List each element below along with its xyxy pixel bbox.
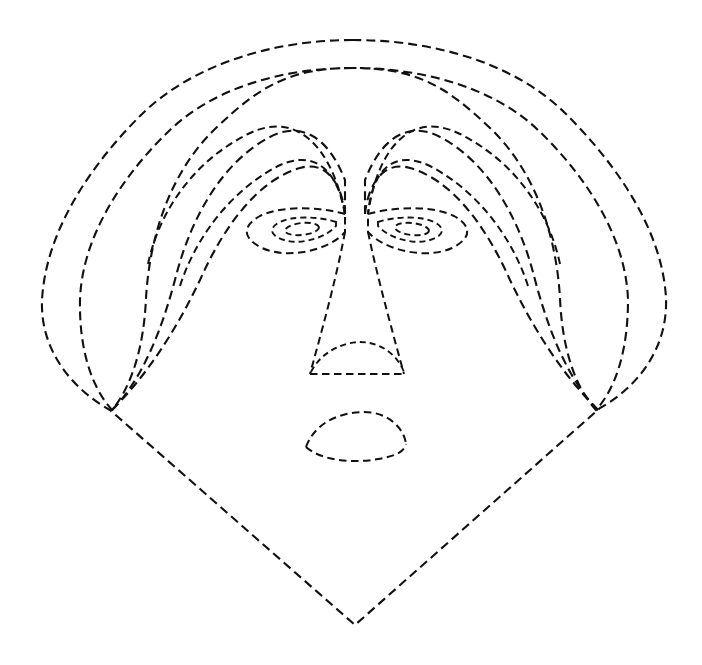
right-eyebrow-outer-arc bbox=[368, 127, 560, 264]
nose-right-edge bbox=[368, 232, 404, 374]
second-head-contour bbox=[80, 68, 628, 410]
right-eye-iris bbox=[378, 218, 442, 242]
mouth-upper-lip bbox=[306, 412, 406, 447]
mouth-lower-lip bbox=[306, 444, 406, 461]
right-eye-pupil bbox=[394, 221, 429, 236]
left-eyebrow-outer-arc bbox=[148, 127, 345, 264]
third-head-contour-mirror bbox=[365, 131, 598, 410]
outer-head-contour bbox=[42, 40, 666, 625]
artboard bbox=[0, 0, 702, 665]
third-head-contour bbox=[112, 131, 345, 410]
nose-tip-arc bbox=[311, 342, 404, 372]
left-eyebrow-inner-arc bbox=[180, 160, 345, 286]
left-eye-iris bbox=[272, 218, 336, 242]
left-eye-pupil bbox=[284, 221, 319, 236]
face-line-art bbox=[0, 0, 702, 665]
